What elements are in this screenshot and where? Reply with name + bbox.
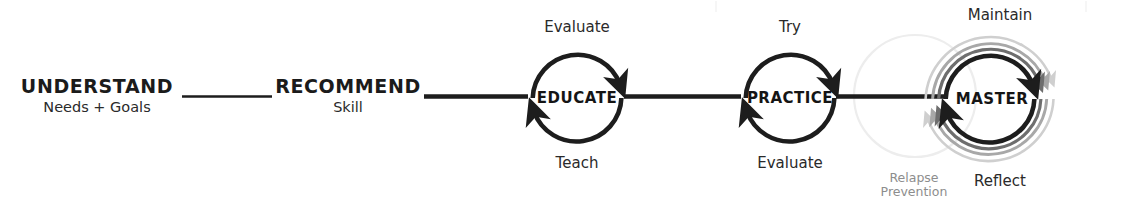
educate-node-label: EDUCATE	[537, 89, 617, 107]
stage-recommend-title: RECOMMEND	[275, 75, 421, 97]
educate-bottom-label: Teach	[555, 154, 599, 172]
stage-understand-title: UNDERSTAND	[21, 75, 173, 97]
master-bottom-label: Reflect	[974, 172, 1026, 190]
master-top-label: Maintain	[968, 6, 1033, 24]
relapse-prevention-line1: Relapse	[889, 170, 938, 185]
stage-understand: UNDERSTAND Needs + Goals	[21, 75, 173, 115]
stage-understand-subtitle: Needs + Goals	[43, 99, 150, 115]
cycle-educate: Evaluate EDUCATE Teach	[533, 18, 622, 172]
cycle-master: Maintain MASTER Reflect	[926, 6, 1054, 190]
practice-bottom-label: Evaluate	[757, 154, 823, 172]
stage-recommend: RECOMMEND Skill	[275, 75, 421, 115]
master-node-label: MASTER	[956, 90, 1028, 108]
cycle-practice: Try PRACTICE Evaluate	[746, 18, 835, 172]
stage-recommend-subtitle: Skill	[333, 99, 363, 115]
diagram-canvas: UNDERSTAND Needs + Goals RECOMMEND Skill…	[0, 0, 1121, 203]
educate-top-label: Evaluate	[544, 18, 610, 36]
relapse-prevention-line2: Prevention	[881, 184, 948, 199]
practice-top-label: Try	[778, 18, 801, 36]
learning-journey-diagram: UNDERSTAND Needs + Goals RECOMMEND Skill…	[0, 0, 1121, 203]
practice-node-label: PRACTICE	[747, 89, 833, 107]
